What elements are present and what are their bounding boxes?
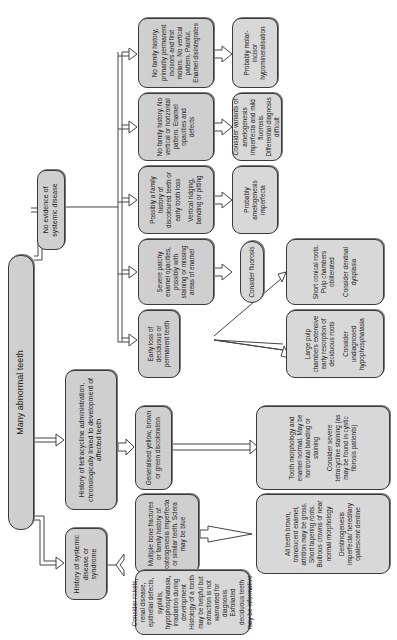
hypophosphatasia-result-label-a: Large pulp chambers extensive early reso… [304,314,337,374]
no-family-mih-node: No family history, primarily permanent i… [138,18,214,88]
discoloration-label: Generalised yellow, brown or green disco… [145,410,161,486]
dentinal-dysplasia-result-node: Short conical roots. Pulp chambers oblit… [286,239,384,305]
root-node: Many abnormal teeth [8,255,34,530]
family-history-label-b: Vertical ridging, banding or pitting [187,170,203,230]
no-systemic-disease-node: No evidence of systemic disease [37,170,65,250]
tetracycline-staining-result-label-b: Consider severe tetracycline staining (a… [326,410,359,486]
fluorosis-result-node: Consider fluorosis [240,241,264,303]
family-history-label-a: Possibly a family history of discoloured… [149,170,182,230]
bone-fractures-node: Multiple bone fractures or family histor… [135,494,199,574]
severe-opacities-node: Severe patchy enamel opacities, possibly… [138,239,214,305]
mih-result-node: Probably molar-incisor hypomineralisatio… [232,18,278,88]
bone-fractures-label: Multiple bone fractures or family histor… [147,498,188,570]
hypophosphatasia-result-label-b: Consider undiagnosed hypophosphatasia [342,314,367,374]
no-systemic-disease-label: No evidence of systemic disease [42,174,60,246]
dentinogenesis-result-label-a: All teeth brown, translucent enamel, att… [284,498,333,570]
dentinal-dysplasia-result-label-a: Short conical roots. Pulp chambers oblit… [312,243,337,301]
fluorosis-result-label: Consider fluorosis [248,246,256,297]
family-history-node: Possibly a family history of discoloured… [138,166,214,234]
mih-result-label: Probably molar-incisor hypomineralisatio… [243,22,268,84]
hypophosphatasia-result-node: Large pulp chambers extensive early reso… [286,310,384,378]
amelogenesis-result-label: Probably amelogenesis imperfecta [243,170,268,230]
severe-opacities-label: Severe patchy enamel opacities, possibly… [156,243,197,301]
no-family-mih-label: No family history, primarily permanent i… [151,22,200,84]
tetracycline-history-label: History of tetracycline administration, … [78,374,105,506]
amelogenesis-result-node: Probably amelogenesis imperfecta [232,166,278,234]
systemic-disease-label: History of systemic disease or syndrome [73,532,100,596]
tetracycline-staining-result-node: Tooth morphology and enamel normal. May … [256,406,390,490]
systemic-disease-node: History of systemic disease or syndrome [65,528,107,600]
consider-rickets-label-b: Histology of a tooth may be helpful but … [188,574,254,631]
consider-rickets-label-a: Consider rickets, renal disease, epithel… [131,574,188,631]
dentinogenesis-result-label-b: Dentinogenesis imperfecta/ hereditary op… [338,498,363,570]
dentinal-dysplasia-result-label-b: Consider dentinal dysplasia [342,243,358,301]
no-family-pattern-node: No family history. No vertical or horizo… [138,93,214,161]
early-loss-label: Early loss of deciduous or permanent tee… [147,314,172,374]
variants-result-label-a: Consider variants of amelogenesis imperf… [232,97,265,157]
variants-result-label-b: Differential diagnosis difficult [265,97,281,157]
no-family-pattern-label: No family history. No vertical or horizo… [156,97,197,157]
variants-result-node: Consider variants of amelogenesis imperf… [232,93,282,161]
consider-rickets-node: Consider rickets, renal disease, epithel… [135,570,250,635]
root-label: Many abnormal teeth [15,350,27,435]
tetracycline-staining-result-label-a: Tooth morphology and enamel normal. May … [288,410,321,486]
tetracycline-history-node: History of tetracycline administration, … [65,370,117,510]
early-loss-node: Early loss of deciduous or permanent tee… [138,310,180,378]
flowchart-diagram: Many abnormal teeth History of systemic … [0,0,397,640]
dentinogenesis-result-node: All teeth brown, translucent enamel, att… [256,494,390,574]
discoloration-node: Generalised yellow, brown or green disco… [135,406,172,490]
